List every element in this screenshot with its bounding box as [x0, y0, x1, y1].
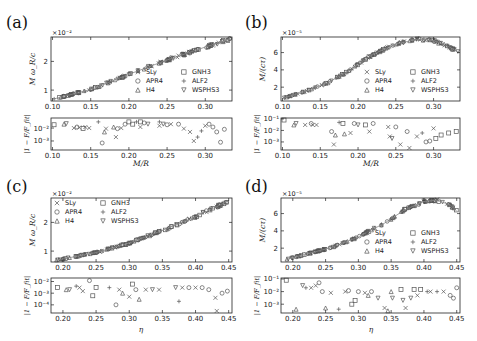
circle-marker	[207, 288, 211, 292]
x-marker	[169, 122, 173, 126]
residual-axes-frame	[51, 278, 232, 313]
x-marker	[117, 288, 121, 292]
residual-y-axis-label: |1 − F/F_fit|	[253, 114, 261, 154]
residual-y-tick-label: 10⁻²	[264, 127, 280, 135]
y-tick-label: 6	[274, 49, 279, 57]
x-marker	[348, 131, 352, 135]
legend-label: SLy	[375, 68, 386, 76]
x-marker	[188, 130, 192, 134]
x-marker	[365, 70, 369, 74]
triangle-up-marker	[389, 290, 393, 294]
legend-label: SLy	[146, 68, 157, 76]
triangle-up-marker	[365, 88, 369, 92]
residual-axes-frame	[51, 118, 232, 150]
circle-marker	[347, 289, 351, 293]
square-marker	[399, 287, 403, 291]
triangle-down-marker	[146, 122, 150, 126]
triangle-up-marker	[121, 291, 125, 295]
square-marker	[91, 294, 95, 298]
residual-y-tick-label: 10⁻³	[264, 138, 280, 146]
plus-marker	[107, 286, 111, 290]
x-tick-label: 0.25	[88, 264, 104, 272]
figure-canvas: (a)0.100.150.200.250.3012×10⁻²M ω_R/cSLy…	[0, 0, 477, 341]
legend-label: APR4	[146, 77, 163, 85]
x-marker	[215, 309, 219, 313]
residual-points	[52, 120, 226, 145]
x-tick-label: 0.35	[155, 315, 171, 323]
residual-points	[56, 279, 230, 313]
legend-label: GNH3	[192, 68, 211, 76]
x-tick-label: 0.30	[197, 103, 213, 111]
residual-y-axis-label: |1 − F/F_fit|	[253, 276, 261, 316]
circle-marker	[142, 121, 146, 125]
legend-label: APR4	[375, 77, 392, 85]
circle-marker	[55, 210, 59, 214]
y-tick-label: 2	[44, 219, 48, 227]
x-tick-label: 0.45	[221, 264, 237, 272]
circle-marker	[371, 121, 375, 125]
triangle-up-marker	[112, 125, 116, 129]
square-marker	[52, 123, 56, 127]
circle-marker	[424, 140, 428, 144]
x-marker	[78, 286, 82, 290]
square-marker	[284, 278, 288, 282]
triangle-down-marker	[174, 286, 178, 290]
plus-marker	[196, 135, 200, 139]
x-marker	[442, 290, 446, 294]
triangle-down-marker	[411, 88, 415, 92]
x-tick-label: 0.20	[55, 315, 71, 323]
x-marker	[329, 291, 333, 295]
circle-marker	[405, 130, 409, 134]
square-marker	[127, 120, 131, 124]
circle-marker	[115, 127, 119, 131]
panel-label: (c)	[6, 177, 27, 196]
square-marker	[341, 121, 345, 125]
circle-marker	[365, 79, 369, 83]
circle-marker	[356, 290, 360, 294]
triangle-down-marker	[411, 249, 415, 253]
residual-y-tick-label: 10⁻⁴	[34, 301, 50, 309]
plus-marker	[411, 79, 415, 83]
x-tick-label: 0.10	[45, 103, 61, 111]
x-marker	[383, 306, 387, 310]
circle-marker	[394, 125, 398, 129]
square-marker	[131, 122, 135, 126]
legend: SLyGNH3APR4ALF2H4WSPHS3	[136, 68, 220, 94]
x-tick-label: 0.40	[416, 264, 432, 272]
x-marker	[138, 125, 142, 129]
triangle-up-marker	[136, 88, 140, 92]
y-tick-label: 2	[274, 84, 278, 92]
circle-marker	[352, 121, 356, 125]
x-marker	[415, 134, 419, 138]
legend-label: GNH3	[421, 229, 440, 237]
x-marker	[367, 130, 371, 134]
legend: SLyGNH3APR4ALF2H4WSPHS3	[55, 199, 139, 225]
legend-label: H4	[375, 247, 384, 255]
x-tick-label: 0.35	[383, 264, 399, 272]
legend-label: WSPHS3	[111, 217, 139, 225]
triangle-down-marker	[356, 123, 360, 127]
square-marker	[454, 130, 458, 134]
x-tick-label: 0.25	[88, 315, 104, 323]
x-axis-label: M/R	[132, 159, 149, 168]
x-marker	[87, 126, 91, 130]
triangle-down-marker	[409, 296, 413, 300]
panel-label: (d)	[245, 177, 268, 196]
x-tick-label: 0.25	[159, 103, 175, 111]
legend-label: SLy	[65, 199, 76, 207]
square-marker	[447, 131, 451, 135]
plus-marker	[435, 290, 439, 294]
residual-y-tick-label: 10⁻¹	[264, 275, 280, 283]
circle-marker	[211, 125, 215, 129]
x-marker	[415, 293, 419, 297]
plus-marker	[411, 240, 415, 244]
square-marker	[434, 136, 438, 140]
circle-marker	[365, 240, 369, 244]
legend-label: ALF2	[421, 77, 437, 85]
circle-marker	[87, 279, 91, 283]
square-marker	[419, 287, 423, 291]
legend: SLyGNH3APR4ALF2H4WSPHS3	[365, 229, 449, 255]
y-multiplier: ×10⁻²	[52, 190, 72, 198]
plus-marker	[304, 286, 308, 290]
legend-label: ALF2	[111, 208, 127, 216]
